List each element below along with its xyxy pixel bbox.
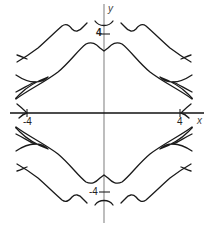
loop-tail-upper-left	[16, 82, 35, 92]
y-tick-label-neg4: -4	[89, 187, 98, 197]
outer-branch-lower-left	[17, 164, 87, 203]
outer-branch-lower-right	[121, 164, 191, 203]
loop-upper-right	[160, 75, 192, 98]
loop-lower-right	[160, 128, 192, 151]
plot-area	[0, 0, 214, 225]
outer-branch-upper-left	[17, 23, 87, 62]
loop-tail-lower-right	[173, 134, 192, 144]
x-tick-label-4: 4	[177, 117, 183, 127]
x-axis-label: x	[197, 116, 202, 126]
y-tick-label-4: 4	[96, 28, 102, 38]
loop-lower-left	[16, 128, 48, 151]
x-tick-label-neg4: -4	[23, 117, 32, 127]
loop-tail-lower-left	[16, 134, 35, 144]
outer-branch-upper-right	[121, 23, 191, 62]
loop-upper-left	[16, 75, 48, 98]
loop-tail-upper-right	[173, 82, 192, 92]
y-axis-label: y	[108, 4, 113, 14]
